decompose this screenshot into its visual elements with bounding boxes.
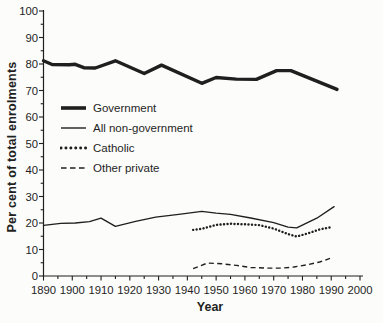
legend-swatch-dotted-icon xyxy=(60,143,87,153)
legend-item-government: Government xyxy=(60,100,193,115)
legend-item-other-private: Other private xyxy=(60,160,193,175)
y-tick-label: 60 xyxy=(25,111,38,123)
legend-swatch-solid-thick-icon xyxy=(60,103,87,113)
series-line-government xyxy=(44,61,338,90)
y-tick-label: 0 xyxy=(32,270,38,282)
legend-item-all-non-government: All non-government xyxy=(60,120,193,135)
y-tick-label: 50 xyxy=(25,138,38,150)
x-tick-label: 1930 xyxy=(146,284,171,296)
legend-item-catholic: Catholic xyxy=(60,140,193,155)
y-axis-ticks xyxy=(39,11,44,276)
y-tick-label: 30 xyxy=(25,191,38,203)
chart-legend: GovernmentAll non-governmentCatholicOthe… xyxy=(60,100,193,175)
legend-label-catholic: Catholic xyxy=(93,142,135,154)
x-tick-label: 1960 xyxy=(232,284,257,296)
legend-label-government: Government xyxy=(93,102,156,114)
x-tick-label: 1970 xyxy=(261,284,286,296)
x-tick-label: 1900 xyxy=(60,284,85,296)
y-tick-label: 10 xyxy=(25,244,38,256)
x-tick-label: 1980 xyxy=(290,284,315,296)
x-tick-label: 1920 xyxy=(117,284,142,296)
legend-swatch-dashed-icon xyxy=(60,163,87,173)
x-tick-label: 1910 xyxy=(88,284,113,296)
x-tick-label: 1940 xyxy=(175,284,200,296)
x-axis-tick-labels: 1890190019101920193019401950196019701980… xyxy=(31,284,373,296)
x-axis-ticks xyxy=(44,276,361,281)
y-tick-label: 40 xyxy=(25,164,38,176)
series-line-all-non-government xyxy=(44,207,335,228)
y-tick-label: 90 xyxy=(25,32,38,44)
y-tick-label: 20 xyxy=(25,217,38,229)
x-tick-label: 2000 xyxy=(347,284,372,296)
legend-label-all-non-government: All non-government xyxy=(93,122,193,134)
y-axis-tick-labels: 0102030405060708090100 xyxy=(19,5,38,282)
x-tick-label: 1890 xyxy=(31,284,56,296)
series-line-catholic xyxy=(193,224,331,237)
series-line-other-private xyxy=(193,258,331,269)
x-tick-label: 1950 xyxy=(204,284,229,296)
y-tick-label: 100 xyxy=(19,5,38,17)
y-tick-label: 80 xyxy=(25,58,38,70)
y-tick-label: 70 xyxy=(25,85,38,97)
x-axis-title: Year xyxy=(150,300,270,314)
legend-swatch-solid-thin-icon xyxy=(60,123,87,133)
y-axis-title: Per cent of total enrolments xyxy=(5,0,21,297)
enrolment-share-line-chart: 0102030405060708090100189019001910192019… xyxy=(0,0,383,323)
x-tick-label: 1990 xyxy=(319,284,344,296)
legend-label-other-private: Other private xyxy=(93,162,159,174)
